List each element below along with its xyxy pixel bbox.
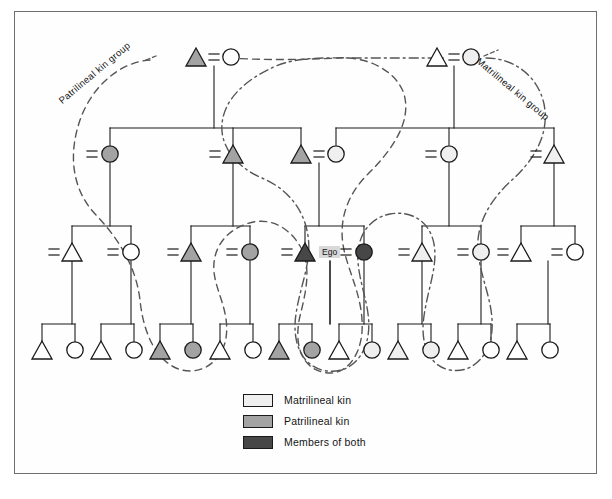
kin-node-female-g4-06 (185, 342, 201, 358)
kin-node-male-g4-05 (150, 341, 170, 359)
legend-swatch-matrilineal (243, 394, 273, 407)
kin-node-female-g3-b (123, 244, 139, 260)
kin-node-female-g3-h (473, 244, 489, 260)
legend-label-both: Members of both (284, 436, 366, 448)
kin-node-female-g4-14 (423, 342, 439, 358)
patrilineal-group-outline (73, 58, 405, 373)
legend-label-matrilineal: Matrilineal kin (284, 394, 351, 406)
kin-node-female-g4-08 (245, 342, 261, 358)
legend-swatch-both (243, 436, 273, 449)
kin-node-male-g3-g (412, 243, 432, 261)
kin-node-male-g2-f (544, 145, 564, 163)
kin-node-female-g4-10 (304, 342, 320, 358)
kin-node-female-g4-18 (542, 342, 558, 358)
kin-node-female-g4-02 (67, 342, 83, 358)
kin-node-male-g4-01 (32, 341, 52, 359)
kin-node-female-g2-e (441, 146, 457, 162)
kin-node-female-g1-f-l (223, 49, 239, 65)
legend: Matrilineal kin Patrilineal kin Members … (243, 391, 428, 454)
kin-node-male-g4-03 (91, 341, 111, 359)
kin-node-female-g4-16 (483, 342, 499, 358)
kin-node-female-g2-a (102, 146, 118, 162)
matrilineal-label-leader (484, 50, 498, 56)
kin-node-male-g4-07 (210, 341, 230, 359)
legend-item: Matrilineal kin (243, 391, 428, 409)
kin-node-male-g3-c (181, 243, 201, 261)
ego-label: Ego (319, 246, 340, 258)
kin-node-female-g3-d (242, 244, 258, 260)
legend-item: Patrilineal kin (243, 412, 428, 430)
kin-node-male-g3-i (511, 243, 531, 261)
kin-node-male-g4-11 (329, 341, 349, 359)
kin-node-male-g3-a (62, 243, 82, 261)
kinship-diagram-page: Patrilineal kin group Matrilineal kin gr… (0, 0, 612, 499)
kin-node-female-g4-12 (364, 342, 380, 358)
kin-node-male-g4-09 (269, 341, 289, 359)
kin-node-male-g2-c (291, 145, 311, 163)
kin-node-male-g1-m-l (186, 48, 206, 66)
legend-item: Members of both (243, 433, 428, 451)
patrilineal-label-leader (146, 56, 156, 60)
kin-node-male-g2-b (223, 145, 243, 163)
kin-node-female-g3-f (356, 244, 372, 260)
kin-node-male-g4-15 (448, 341, 468, 359)
kin-node-male-g4-13 (388, 341, 408, 359)
legend-swatch-patrilineal (243, 415, 273, 428)
kin-node-male-g3-e (295, 243, 315, 261)
matrilineal-group-outline (222, 58, 545, 371)
kin-node-female-g3-j (567, 244, 583, 260)
kin-node-female-g2-d (328, 146, 344, 162)
legend-label-patrilineal: Patrilineal kin (284, 415, 349, 427)
kin-node-male-g1-m-r (427, 48, 447, 66)
kin-node-male-g4-17 (507, 341, 527, 359)
kin-node-female-g4-04 (126, 342, 142, 358)
